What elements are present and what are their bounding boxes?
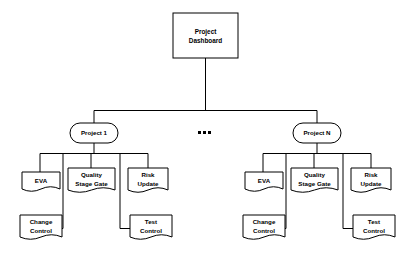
project-dashboard-line1: Project: [195, 28, 218, 36]
test-control-1-line1: Test: [145, 218, 157, 225]
node-project-n[interactable]: Project N: [293, 123, 341, 143]
node-change-control-1[interactable]: Change Control: [20, 215, 62, 239]
diagram-canvas: Project Dashboard Project 1 EVA Quality …: [0, 0, 414, 261]
quality-stage-gate-1-line2: Stage Gate: [75, 180, 108, 187]
node-test-control-n[interactable]: Test Control: [353, 215, 395, 239]
node-project-1[interactable]: Project 1: [70, 123, 118, 143]
ellipsis-dot-3: [208, 131, 211, 134]
node-change-control-n[interactable]: Change Control: [243, 215, 285, 239]
node-project-dashboard[interactable]: Project Dashboard: [173, 13, 238, 58]
risk-update-n-line1: Risk: [364, 171, 378, 178]
risk-update-1-line2: Update: [138, 180, 160, 187]
project-n-label: Project N: [303, 129, 331, 136]
ellipsis-dot-2: [203, 131, 206, 134]
change-control-1-line2: Control: [30, 227, 52, 234]
node-test-control-1[interactable]: Test Control: [130, 215, 172, 239]
project-1-label: Project 1: [81, 129, 108, 136]
project-dashboard-box: [173, 13, 238, 58]
change-control-n-line2: Control: [253, 227, 275, 234]
project-dashboard-line2: Dashboard: [189, 37, 222, 44]
quality-stage-gate-n-line2: Stage Gate: [298, 180, 331, 187]
node-quality-stage-gate-n[interactable]: Quality Stage Gate: [291, 168, 338, 192]
quality-stage-gate-n-line1: Quality: [304, 171, 326, 178]
eva-n-line1: EVA: [258, 177, 271, 184]
node-eva-1[interactable]: EVA: [22, 172, 60, 191]
test-control-n-line1: Test: [368, 218, 380, 225]
ellipsis-dot-1: [198, 131, 201, 134]
change-control-1-line1: Change: [30, 218, 53, 225]
change-control-n-line1: Change: [253, 218, 276, 225]
test-control-1-line2: Control: [140, 227, 162, 234]
test-control-n-line2: Control: [363, 227, 385, 234]
ellipsis: [198, 131, 211, 134]
node-risk-update-1[interactable]: Risk Update: [128, 168, 168, 192]
risk-update-n-line2: Update: [361, 180, 383, 187]
node-eva-n[interactable]: EVA: [245, 172, 283, 191]
node-risk-update-n[interactable]: Risk Update: [351, 168, 391, 192]
hierarchy-diagram: Project Dashboard Project 1 EVA Quality …: [0, 0, 414, 261]
risk-update-1-line1: Risk: [141, 171, 155, 178]
node-quality-stage-gate-1[interactable]: Quality Stage Gate: [68, 168, 115, 192]
quality-stage-gate-1-line1: Quality: [81, 171, 103, 178]
eva-1-line1: EVA: [35, 177, 48, 184]
